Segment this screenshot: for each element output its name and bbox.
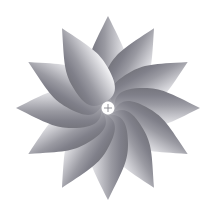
radial-petal-rosette	[0, 0, 216, 215]
image-canvas	[0, 0, 216, 215]
